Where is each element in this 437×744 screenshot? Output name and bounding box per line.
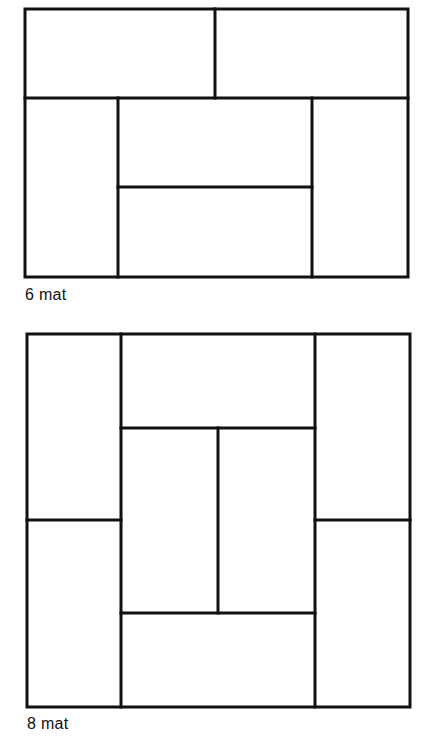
six-mat-diagram bbox=[25, 9, 408, 277]
eight-mat-label: 8 mat bbox=[27, 716, 69, 732]
six-mat-label: 6 mat bbox=[25, 287, 67, 303]
mat-layout-diagrams bbox=[0, 0, 437, 744]
eight-mat-diagram bbox=[27, 334, 410, 707]
